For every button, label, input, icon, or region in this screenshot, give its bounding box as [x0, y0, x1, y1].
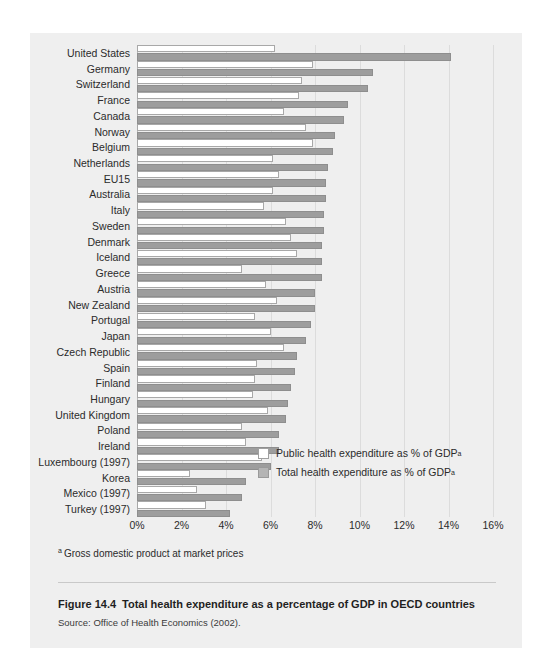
bar-total [137, 116, 344, 123]
bar-public [137, 328, 271, 335]
caption-divider [58, 582, 496, 583]
bar-public [137, 124, 306, 131]
x-tick-label: 2% [174, 519, 189, 531]
bar-total [137, 289, 315, 296]
bar-public [137, 375, 255, 382]
chart-row: Sweden [137, 218, 493, 234]
bar-total [137, 384, 291, 391]
bar-public [137, 155, 273, 162]
chart-row: United Kingdom [137, 407, 493, 423]
chart-row: Spain [137, 360, 493, 376]
chart-row: Germany [137, 61, 493, 77]
x-tick-label: 8% [307, 519, 322, 531]
bar-total [137, 478, 246, 485]
x-tick-label: 14% [438, 519, 459, 531]
category-label: New Zealand [68, 300, 130, 311]
chart-row: Australia [137, 187, 493, 203]
bar-total [137, 53, 451, 60]
bar-total [137, 242, 322, 249]
bar-total [137, 415, 286, 422]
bar-total [137, 85, 368, 92]
legend-public-superscript: a [458, 450, 462, 457]
x-axis: 0%2%4%6%8%10%12%14%16% [137, 519, 493, 537]
category-label: Finland [96, 378, 130, 389]
category-label: Iceland [96, 252, 130, 263]
bar-public [137, 344, 284, 351]
category-label: Italy [111, 205, 130, 216]
bar-total [137, 463, 271, 470]
category-label: Greece [96, 268, 130, 279]
caption-title-line: Figure 14.4Total health expenditure as a… [58, 597, 504, 611]
category-label: Portugal [91, 315, 130, 326]
bar-public [137, 501, 206, 508]
bar-total [137, 274, 322, 281]
chart-row: Iceland [137, 250, 493, 266]
x-tick-label: 6% [263, 519, 278, 531]
bar-public [137, 108, 284, 115]
bar-public [137, 77, 302, 84]
legend-label-public: Public health expenditure as % of GDP [276, 447, 458, 459]
bar-total [137, 321, 311, 328]
bar-total [137, 431, 279, 438]
category-label: Korea [102, 473, 130, 484]
legend-label-total: Total health expenditure as % of GDP [276, 466, 451, 478]
bar-total [137, 211, 324, 218]
x-tick-label: 4% [218, 519, 233, 531]
chart-row: Poland [137, 423, 493, 439]
bar-public [137, 218, 286, 225]
x-tick-label: 16% [482, 519, 503, 531]
chart-row: Japan [137, 328, 493, 344]
bar-total [137, 179, 326, 186]
bar-public [137, 470, 190, 477]
category-label: Ireland [98, 441, 130, 452]
bar-public [137, 139, 313, 146]
bar-public [137, 313, 255, 320]
bar-total [137, 510, 230, 517]
category-label: Turkey (1997) [65, 504, 130, 515]
chart-footnote: aGross domestic product at market prices [58, 547, 243, 559]
bar-public [137, 454, 262, 461]
bar-total [137, 305, 315, 312]
chart-row: Austria [137, 281, 493, 297]
chart-row: Switzerland [137, 76, 493, 92]
category-label: Germany [87, 64, 130, 75]
category-label: EU15 [104, 174, 130, 185]
legend-item-public: Public health expenditure as % of GDPa [258, 447, 461, 459]
x-tick-label: 12% [393, 519, 414, 531]
x-tick-label: 10% [349, 519, 370, 531]
chart-row: EU15 [137, 171, 493, 187]
category-label: Norway [94, 127, 130, 138]
figure-panel: United StatesGermanySwitzerlandFranceCan… [30, 33, 522, 648]
category-label: Netherlands [73, 158, 130, 169]
figure-title: Total health expenditure as a percentage… [122, 598, 475, 610]
bar-total [137, 195, 326, 202]
chart-row: Mexico (1997) [137, 486, 493, 502]
bar-total [137, 258, 322, 265]
legend-total-superscript: a [451, 469, 455, 476]
bar-public [137, 187, 273, 194]
chart-row: Greece [137, 265, 493, 281]
category-label: Czech Republic [56, 347, 130, 358]
category-label: Poland [97, 425, 130, 436]
category-label: Mexico (1997) [63, 488, 130, 499]
category-label: Hungary [90, 394, 130, 405]
figure-source: Source: Office of Health Economics (2002… [58, 617, 504, 628]
chart-row: Canada [137, 108, 493, 124]
bar-total [137, 164, 328, 171]
chart-row: Belgium [137, 139, 493, 155]
category-label: France [97, 95, 130, 106]
chart-row: New Zealand [137, 297, 493, 313]
chart-row: Denmark [137, 234, 493, 250]
chart-row: Portugal [137, 312, 493, 328]
chart-row: France [137, 92, 493, 108]
bar-public [137, 407, 268, 414]
chart-row: Hungary [137, 391, 493, 407]
bar-public [137, 360, 257, 367]
category-label: Canada [93, 111, 130, 122]
chart-row: Finland [137, 375, 493, 391]
category-label: Japan [101, 331, 130, 342]
category-label: Australia [89, 189, 130, 200]
bar-public [137, 202, 264, 209]
bar-public [137, 438, 246, 445]
bar-total [137, 101, 348, 108]
